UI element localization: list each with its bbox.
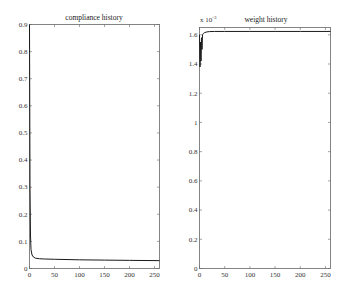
y-tick-label: 1: [194, 119, 198, 127]
compliance-y-ticks: 00.10.20.30.40.50.60.70.80.9: [19, 21, 160, 273]
y-tick-label: 0.9: [19, 21, 28, 29]
y-tick-label: 1.6: [189, 31, 198, 39]
y-tick-label: 0.3: [19, 183, 28, 191]
x-tick-label: 200: [124, 271, 135, 279]
y-tick-label: 0.2: [189, 236, 198, 244]
x-tick-label: 0: [198, 271, 202, 279]
weight-curve: [200, 31, 331, 67]
y-tick-label: 0.6: [19, 102, 28, 110]
x-tick-label: 50: [51, 271, 59, 279]
x-tick-label: 150: [99, 271, 110, 279]
y-tick-label: 0.2: [19, 211, 28, 219]
y-tick-label: 0.1: [19, 238, 28, 246]
compliance-curve: [30, 25, 160, 261]
y-tick-label: 0.7: [19, 75, 28, 83]
y-tick-label: 1.2: [189, 90, 198, 98]
weight-multiplier: x 10-3: [200, 15, 217, 24]
y-tick-label: 0.4: [19, 156, 28, 164]
compliance-axes-box: [30, 25, 160, 269]
x-tick-label: 100: [74, 271, 85, 279]
weight-title: weight history: [244, 15, 287, 24]
weight-plot: weight history x 10-3 00.20.40.60.811.21…: [189, 15, 331, 279]
x-tick-label: 250: [149, 271, 160, 279]
y-tick-label: 0.4: [189, 206, 198, 214]
x-tick-label: 50: [221, 271, 229, 279]
y-tick-label: 1.4: [189, 60, 198, 68]
y-tick-label: 0.8: [19, 48, 28, 56]
x-tick-label: 0: [28, 271, 32, 279]
x-tick-label: 200: [295, 271, 306, 279]
compliance-x-ticks: 050100150200250: [28, 25, 161, 279]
y-tick-label: 0.8: [189, 148, 198, 156]
compliance-plot: compliance history 00.10.20.30.40.50.60.…: [19, 13, 161, 279]
x-tick-label: 250: [320, 271, 331, 279]
compliance-title: compliance history: [65, 13, 123, 22]
figure: compliance history 00.10.20.30.40.50.60.…: [0, 0, 344, 293]
x-tick-label: 100: [245, 271, 256, 279]
y-tick-label: 0.6: [189, 177, 198, 185]
weight-axes-box: [200, 28, 331, 269]
weight-y-ticks: 00.20.40.60.811.21.41.6: [189, 31, 331, 273]
y-tick-label: 0.5: [19, 129, 28, 137]
weight-x-ticks: 050100150200250: [198, 28, 331, 279]
x-tick-label: 150: [270, 271, 281, 279]
